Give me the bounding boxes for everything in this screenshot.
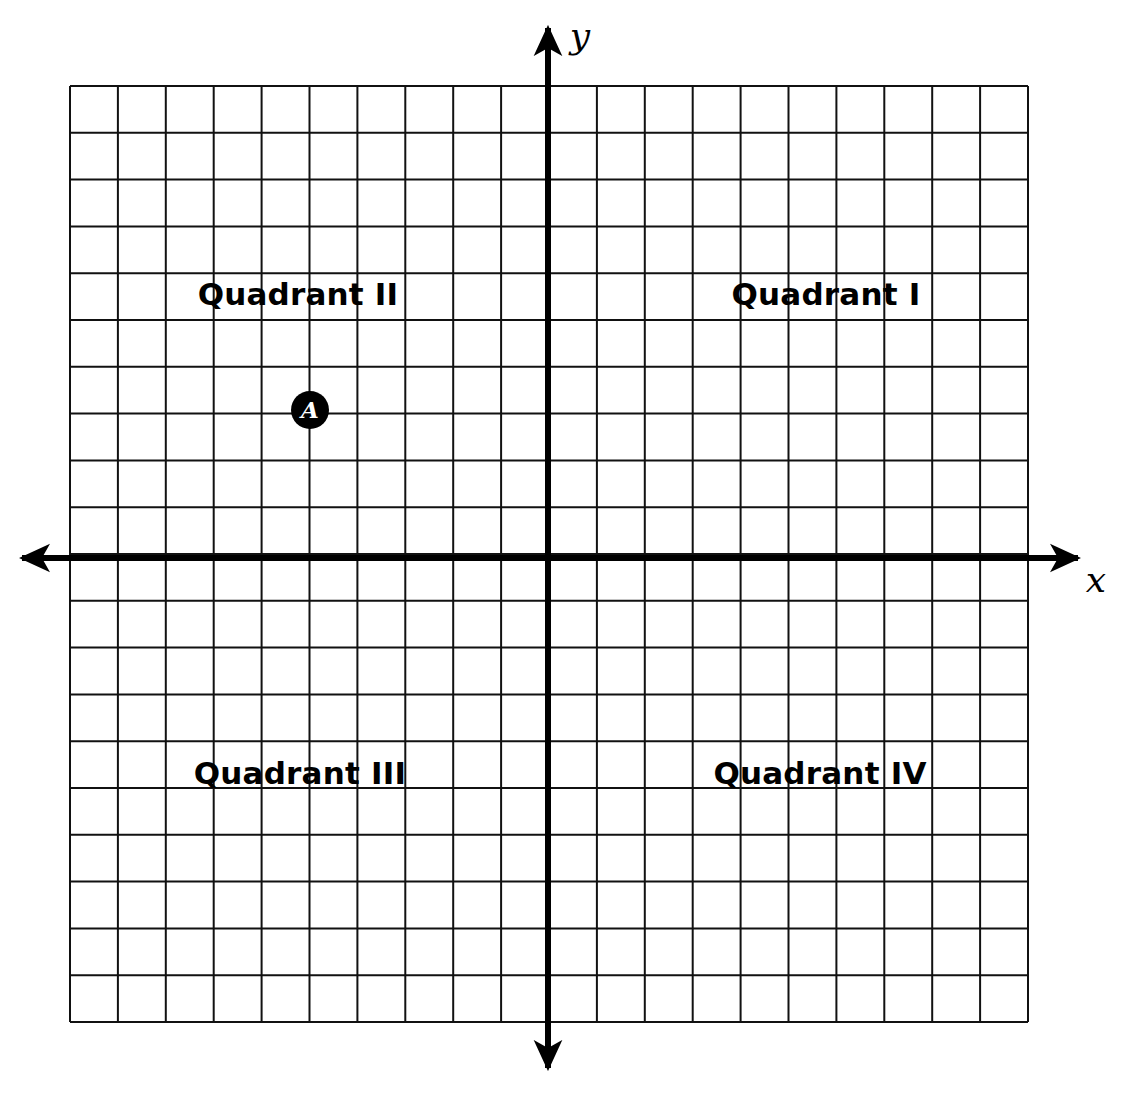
coordinate-plane-figure: x y Quadrant I Quadrant II Quadrant III … <box>0 0 1128 1098</box>
y-axis-label: y <box>570 18 590 54</box>
quadrant-3-label: Quadrant III <box>194 758 406 789</box>
point-a-marker: A <box>291 391 329 429</box>
quadrant-4-label: Quadrant IV <box>713 758 926 789</box>
x-axis-label: x <box>1086 562 1106 598</box>
quadrant-1-label: Quadrant I <box>732 279 921 310</box>
point-a-label: A <box>301 398 319 421</box>
quadrant-2-label: Quadrant II <box>198 279 399 310</box>
coordinate-plane-canvas <box>0 0 1128 1098</box>
